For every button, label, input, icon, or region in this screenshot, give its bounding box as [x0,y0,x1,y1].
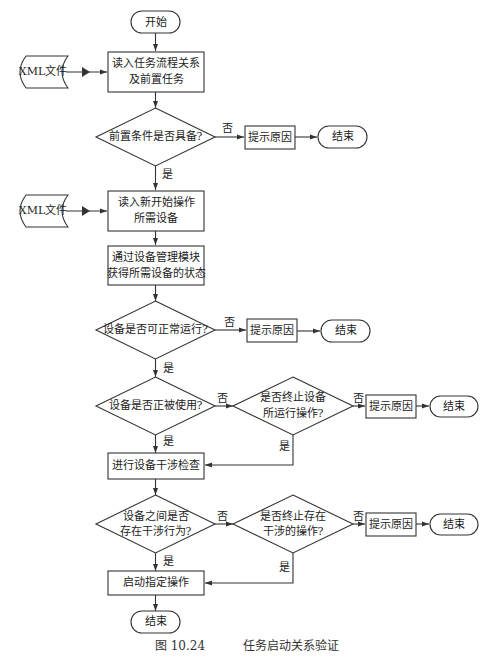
end-terminal-1: 结束 [318,126,367,148]
decision-precondition-label: 前置条件是否具备? [109,129,203,143]
process-launch-operation-label: 启动指定操作 [123,575,189,589]
process-read-devices: 读入新开始操作 所需设备 [108,191,204,231]
arrow-head-icon [82,67,90,77]
process-read-devices-line1: 读入新开始操作 [118,195,195,209]
end-terminal-2-label: 结束 [335,324,357,337]
arrow-head-icon [82,206,90,216]
edge-label-yes: 是 [163,435,174,448]
edge-label-yes: 是 [162,168,173,181]
end-terminal-final: 结束 [131,611,180,633]
hint-box-4-label: 提示原因 [369,518,413,531]
decision-interference-line1: 设备之间是否 [123,509,189,523]
end-terminal-1-label: 结束 [332,130,354,143]
process-interference-check-label: 进行设备干涉检查 [112,458,200,472]
end-terminal-3-label: 结束 [443,400,465,413]
hint-box-1: 提示原因 [245,126,295,149]
process-read-task-line1: 读入任务流程关系 [112,56,200,70]
decision-stop-interference-line1: 是否终止存在 [260,509,326,523]
hint-box-3-label: 提示原因 [369,400,413,413]
end-terminal-4-label: 结束 [443,518,465,531]
figure-title: 任务启动关系验证 [243,638,339,653]
process-get-state-line2: 获得所需设备的状态 [107,266,206,280]
decision-device-running-label: 设备是否可正常运行? [103,322,208,336]
xml-file-2: XML文件 [19,195,68,227]
xml-file-2-label: XML文件 [19,203,67,217]
edge-label-no: 否 [353,510,364,523]
start-label: 开始 [145,15,167,29]
decision-device-in-use-label: 设备是否正被使用? [109,398,203,412]
edge-label-yes: 是 [163,555,174,568]
edge-label-no: 否 [217,392,228,405]
figure-number: 图 10.24 [155,639,206,653]
edge-label-yes: 是 [163,362,174,375]
edge-label-yes: 是 [279,440,290,453]
process-read-task: 读入任务流程关系 及前置任务 [108,52,204,92]
decision-stop-device: 是否终止设备 所运行操作? [233,377,353,435]
decision-stop-interference: 是否终止存在 干涉的操作? [233,495,353,553]
end-terminal-2: 结束 [321,320,370,342]
decision-precondition: 前置条件是否具备? [96,108,215,166]
process-read-devices-line2: 所需设备 [134,211,178,225]
xml-file-1: XML文件 [19,56,68,88]
flowchart: 开始 XML文件 读入任务流程关系 及前置任务 前置条件是否具备? 否 提示原因… [0,0,492,657]
process-read-task-line2: 及前置任务 [129,72,184,86]
edge-label-no: 否 [353,392,364,405]
start-terminal: 开始 [131,11,180,33]
decision-stop-device-line1: 是否终止设备 [260,390,326,404]
edge-label-no: 否 [217,510,228,523]
decision-interference: 设备之间是否 存在干涉行为? [96,495,215,553]
end-terminal-4: 结束 [430,514,478,535]
hint-box-2: 提示原因 [247,319,297,342]
hint-box-3: 提示原因 [366,395,416,418]
decision-device-running: 设备是否可正常运行? [96,301,215,359]
process-launch-operation: 启动指定操作 [108,571,204,595]
decision-device-in-use: 设备是否正被使用? [96,377,215,435]
process-get-state-line1: 通过设备管理模块 [112,250,200,264]
decision-interference-line2: 存在干涉行为? [120,524,192,538]
process-get-state: 通过设备管理模块 获得所需设备的状态 [107,246,206,285]
end-terminal-3: 结束 [430,396,478,417]
hint-box-4: 提示原因 [366,513,416,536]
hint-box-1-label: 提示原因 [248,131,292,144]
end-terminal-final-label: 结束 [145,615,167,628]
edge-label-yes: 是 [279,561,290,574]
edge-label-no: 否 [224,316,235,329]
hint-box-2-label: 提示原因 [250,324,294,337]
xml-file-1-label: XML文件 [19,64,67,78]
decision-stop-interference-line2: 干涉的操作? [263,524,324,538]
decision-stop-device-line2: 所运行操作? [263,406,324,420]
process-interference-check: 进行设备干涉检查 [108,453,204,479]
edge-label-no: 否 [222,122,233,135]
